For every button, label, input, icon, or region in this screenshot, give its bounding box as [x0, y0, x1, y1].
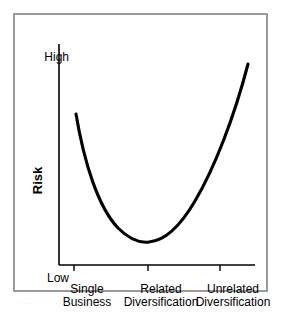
chart-frame: High Low Risk Single Business Related Di…	[13, 13, 268, 292]
y-axis-title: Risk	[30, 146, 45, 216]
figure-root: High Low Risk Single Business Related Di…	[0, 0, 282, 316]
risk-curve	[76, 64, 248, 242]
plot-area: High Low Risk Single Business Related Di…	[15, 15, 270, 294]
caption-remnant: · ··· · ·· ···· · ····· ·· · ··· ·· ····…	[16, 300, 268, 310]
y-axis-high-label: High	[23, 51, 69, 63]
